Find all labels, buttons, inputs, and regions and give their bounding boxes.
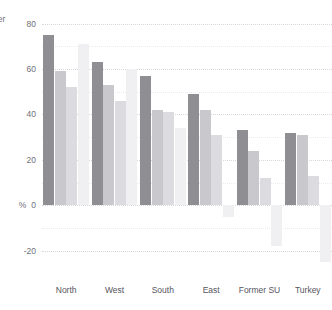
bar	[43, 35, 54, 205]
y-tick-label: 40	[27, 109, 36, 119]
bars	[139, 19, 187, 269]
bar	[115, 101, 126, 206]
x-tick-label: West	[105, 285, 124, 295]
y-tick-label: 20	[27, 155, 36, 165]
bars	[235, 19, 283, 269]
y-unit-symbol: %	[19, 200, 27, 210]
bar	[260, 178, 271, 205]
bar	[103, 85, 114, 205]
x-tick-label: South	[152, 285, 174, 295]
bar-group: East	[187, 19, 235, 269]
bar-group: Turkey	[284, 19, 332, 269]
x-tick-label: East	[203, 285, 220, 295]
bar	[248, 151, 259, 206]
bars	[187, 19, 235, 269]
bar	[271, 205, 282, 246]
bar	[285, 133, 296, 206]
y-tick-label: 80	[27, 19, 36, 29]
x-tick-label: North	[56, 285, 77, 295]
y-axis-title: orker	[0, 14, 5, 24]
plot-area: -20%020406080 NorthWestSouthEastFormer S…	[42, 19, 332, 269]
bars	[42, 19, 90, 269]
y-tick-value: 0	[31, 200, 36, 210]
bar	[163, 112, 174, 205]
bar-group: South	[139, 19, 187, 269]
bar	[320, 205, 331, 262]
bar	[200, 110, 211, 205]
bar	[92, 62, 103, 205]
y-tick-value: 40	[27, 109, 36, 119]
bar-group: North	[42, 19, 90, 269]
bar	[126, 69, 137, 205]
bar-chart: orker -20%020406080 NorthWestSouthEastFo…	[0, 0, 332, 310]
bar	[175, 128, 186, 205]
y-tick-value: 20	[27, 155, 36, 165]
bar	[78, 44, 89, 205]
y-tick-label: -20	[24, 246, 36, 256]
bar	[211, 135, 222, 205]
x-tick-label: Turkey	[295, 285, 321, 295]
bars	[90, 19, 138, 269]
y-tick-label: %0	[19, 200, 36, 210]
bar	[297, 135, 308, 205]
bar	[188, 94, 199, 205]
bar	[308, 176, 319, 206]
y-tick-value: 80	[27, 19, 36, 29]
bar-group: West	[90, 19, 138, 269]
bar	[55, 71, 66, 205]
bar	[140, 76, 151, 206]
bar	[66, 87, 77, 205]
bars	[284, 19, 332, 269]
bar	[223, 205, 234, 216]
y-tick-label: 60	[27, 64, 36, 74]
bar	[237, 130, 248, 205]
bar-group: Former SU	[235, 19, 283, 269]
y-tick-value: -20	[24, 246, 36, 256]
x-tick-label: Former SU	[239, 285, 281, 295]
bar	[152, 110, 163, 205]
bar-groups: NorthWestSouthEastFormer SUTurkey	[42, 19, 332, 269]
y-tick-value: 60	[27, 64, 36, 74]
